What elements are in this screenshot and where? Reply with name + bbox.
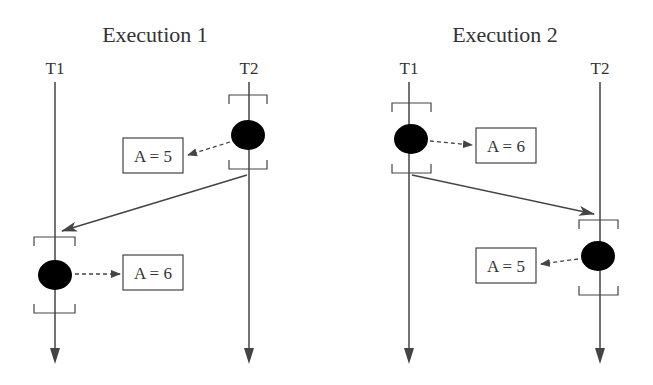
value-label: A = 5 bbox=[487, 257, 525, 276]
write-event-dot bbox=[231, 120, 265, 150]
thread-label: T1 bbox=[46, 59, 65, 78]
timeline-arrow-icon bbox=[595, 348, 605, 364]
ordering-arrow bbox=[62, 175, 247, 231]
write-event-dot bbox=[38, 260, 72, 290]
critical-section-close-bracket bbox=[229, 160, 267, 169]
timeline-arrow-icon bbox=[244, 348, 254, 364]
value-label: A = 5 bbox=[134, 147, 172, 166]
critical-section-open-bracket bbox=[579, 220, 618, 229]
execution-1-thread-t1: T1 A = 6 bbox=[34, 59, 183, 364]
thread-label: T1 bbox=[400, 59, 419, 78]
value-dashed-arrow bbox=[541, 259, 578, 264]
execution-diagram: Execution 1 T1 A = 6 T2 A = 5 bbox=[0, 0, 653, 385]
timeline-arrow-icon bbox=[50, 348, 60, 364]
thread-label: T2 bbox=[240, 59, 259, 78]
execution-2-title: Execution 2 bbox=[452, 22, 558, 47]
write-event-dot bbox=[581, 241, 615, 271]
execution-2-thread-t2: T2 A = 5 bbox=[476, 59, 618, 364]
ordering-arrow bbox=[412, 175, 594, 214]
value-label: A = 6 bbox=[487, 137, 525, 156]
execution-1-thread-t2: T2 A = 5 bbox=[123, 59, 267, 364]
timeline-arrow-icon bbox=[404, 348, 414, 364]
thread-label: T2 bbox=[591, 59, 610, 78]
execution-1: Execution 1 T1 A = 6 T2 A = 5 bbox=[34, 22, 267, 364]
value-dashed-arrow bbox=[188, 142, 230, 155]
value-label: A = 6 bbox=[134, 264, 172, 283]
critical-section-open-bracket bbox=[392, 103, 431, 112]
write-event-dot bbox=[394, 124, 428, 154]
execution-2: Execution 2 T1 A = 6 T2 A = 5 bbox=[392, 22, 618, 364]
execution-1-title: Execution 1 bbox=[102, 22, 208, 47]
critical-section-close-bracket bbox=[392, 164, 431, 173]
value-dashed-arrow bbox=[430, 141, 472, 145]
critical-section-open-bracket bbox=[229, 95, 267, 104]
execution-2-thread-t1: T1 A = 6 bbox=[392, 59, 536, 364]
critical-section-close-bracket bbox=[579, 286, 618, 295]
